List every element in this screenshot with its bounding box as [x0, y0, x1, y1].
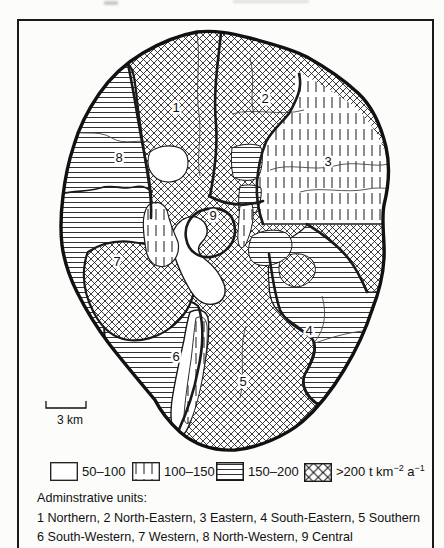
district-label-3: 3: [324, 154, 331, 169]
admin-units-line-1: 1 Northern, 2 North-Eastern, 3 Eastern, …: [37, 509, 429, 529]
district-label-9: 9: [209, 208, 216, 223]
district-label-6: 6: [172, 349, 179, 364]
legend-swatch-crosshatch: [304, 463, 332, 482]
scale-bar: [46, 401, 86, 408]
scale-label: 3 km: [57, 413, 83, 427]
district-label-2: 2: [261, 91, 268, 106]
gt200-unit-a: a: [404, 464, 415, 479]
legend-item-150-200: 150–200: [216, 462, 299, 481]
legend-label: 100–150: [164, 462, 215, 481]
legend-swatch-blank: [50, 462, 78, 481]
legend-swatch-vertical-hatch: [132, 462, 160, 481]
district-label-8: 8: [115, 150, 122, 165]
legend-item-50-100: 50–100: [50, 462, 125, 481]
gt200-sup-exponent-2: −1: [415, 463, 425, 473]
district-label-4: 4: [305, 323, 312, 338]
admin-units-line-2: 6 South-Western, 7 Western, 8 North-West…: [37, 528, 429, 548]
legend-label: 150–200: [248, 462, 299, 481]
legend-item-100-150: 100–150: [132, 462, 215, 481]
legend-item-gt200: >200 t km−2 a−1: [304, 462, 425, 483]
legend-label: 50–100: [82, 462, 125, 481]
district-label-5: 5: [239, 374, 246, 389]
district-label-1: 1: [172, 100, 179, 115]
admin-units-title: Adminstrative units:: [37, 489, 429, 509]
legend-label-gt200: >200 t km−2 a−1: [336, 462, 425, 483]
white-patch-district1: [148, 146, 188, 182]
gt200-base: >200 t km: [336, 464, 393, 479]
legend-swatch-horizontal-hatch: [216, 462, 244, 481]
district-label-7: 7: [113, 254, 120, 269]
gt200-sup-exponent: −2: [393, 463, 403, 473]
figure-container: 1 2 3 4 5 6 7 8 9 3 km 50–100 100–150 15…: [0, 0, 444, 548]
admin-units-note: Adminstrative units: 1 Northern, 2 North…: [37, 489, 429, 548]
